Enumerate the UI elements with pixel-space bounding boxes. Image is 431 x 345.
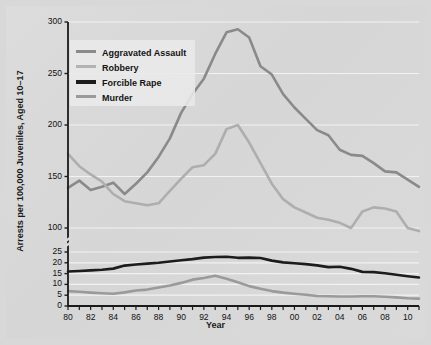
y-tick-label-10: 10 [32,278,62,288]
y-tick-label-0: 0 [32,300,62,310]
x-axis-title: Year [0,320,431,330]
legend-item-robbery[interactable]: Robbery [76,60,139,74]
legend-label: Murder [102,91,133,105]
legend-swatch-icon [76,95,96,98]
y-tick-label-150: 150 [32,171,62,181]
legend-label: Robbery [102,61,139,75]
y-tick-label-200: 200 [32,119,62,129]
y-tick-label-100: 100 [32,222,62,232]
y-axis-title: Arrests per 100,000 Juveniles, Aged 10–1… [15,61,25,261]
legend-label: Forcible Rape [102,76,162,90]
chart-legend: Aggravated AssaultRobberyForcible RapeMu… [70,40,195,106]
y-tick-label-300: 300 [32,16,62,26]
legend-item-murder[interactable]: Murder [76,90,133,104]
legend-swatch-icon [76,65,96,68]
y-tick-label-15: 15 [32,268,62,278]
legend-swatch-icon [76,80,96,84]
y-tick-label-25: 25 [32,246,62,256]
series-line-forcible-rape [68,257,419,278]
legend-item-aggravated-assault[interactable]: Aggravated Assault [76,45,186,59]
chart-figure: Arrests per 100,000 Juveniles, Aged 10–1… [0,0,431,345]
y-tick-label-5: 5 [32,289,62,299]
y-tick-label-20: 20 [32,257,62,267]
chart-plot-area: Arrests per 100,000 Juveniles, Aged 10–1… [6,6,425,339]
chart-canvas [6,6,425,339]
y-tick-label-250: 250 [32,68,62,78]
legend-swatch-icon [76,50,96,53]
legend-item-forcible-rape[interactable]: Forcible Rape [76,75,162,89]
series-line-robbery [68,125,419,231]
legend-label: Aggravated Assault [102,46,186,60]
